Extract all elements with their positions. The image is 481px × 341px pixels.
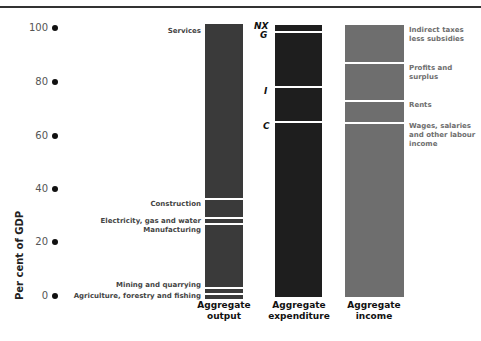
tick-dot-icon xyxy=(52,25,58,31)
title-aggregate-expenditure: Aggregate expenditure xyxy=(264,300,334,322)
segment-agriculture-divider xyxy=(205,293,243,295)
label-line: Wages, salaries xyxy=(409,122,475,131)
segment-profits-divider xyxy=(345,62,404,64)
label-c: C xyxy=(263,122,270,131)
y-tick-label: 40 xyxy=(35,183,48,194)
y-tick-80: 80 xyxy=(0,76,58,87)
segment-wages-divider xyxy=(345,122,404,124)
bar-aggregate-income xyxy=(345,25,404,297)
segment-c-divider xyxy=(275,121,322,123)
label-line: less subsidies xyxy=(409,35,464,44)
segment-rents-divider xyxy=(345,100,404,102)
label-indirect-taxes: Indirect taxes less subsidies xyxy=(409,26,464,44)
top-rule xyxy=(0,6,481,8)
y-tick-40: 40 xyxy=(0,183,58,194)
title-line: expenditure xyxy=(264,311,334,322)
label-agriculture: Agriculture, forestry and fishing xyxy=(74,292,201,301)
title-line: Aggregate xyxy=(194,300,254,311)
label-line: income xyxy=(409,140,475,149)
y-tick-label: 100 xyxy=(29,22,48,33)
label-line: Indirect taxes xyxy=(409,26,464,35)
label-i: I xyxy=(264,87,267,96)
y-tick-label: 0 xyxy=(42,290,48,301)
y-tick-60: 60 xyxy=(0,130,58,141)
segment-electricity-divider xyxy=(205,217,243,219)
label-line: surplus xyxy=(409,73,452,82)
title-aggregate-output: Aggregate output xyxy=(194,300,254,322)
tick-dot-icon xyxy=(52,186,58,192)
segment-mining-divider xyxy=(205,287,243,289)
label-manufacturing: Manufacturing xyxy=(143,226,201,235)
segment-construction-divider xyxy=(205,198,243,200)
segment-i-divider xyxy=(275,86,322,88)
label-wages: Wages, salaries and other labour income xyxy=(409,122,475,149)
title-line: income xyxy=(340,311,408,322)
y-axis-label: Per cent of GDP xyxy=(14,210,25,300)
label-electricity: Electricity, gas and water xyxy=(100,217,201,226)
label-line: and other labour xyxy=(409,131,475,140)
title-line: output xyxy=(194,311,254,322)
y-tick-0: 0 xyxy=(0,290,58,301)
y-tick-label: 20 xyxy=(35,236,48,247)
tick-dot-icon xyxy=(52,239,58,245)
title-line: Aggregate xyxy=(340,300,408,311)
tick-dot-icon xyxy=(52,133,58,139)
y-tick-20: 20 xyxy=(0,236,58,247)
segment-manufacturing-divider xyxy=(205,223,243,225)
y-tick-100: 100 xyxy=(0,22,58,33)
title-line: Aggregate xyxy=(264,300,334,311)
tick-dot-icon xyxy=(52,293,58,299)
bar-aggregate-output xyxy=(205,24,243,299)
y-tick-label: 80 xyxy=(35,76,48,87)
label-line: Profits and xyxy=(409,64,452,73)
label-rents: Rents xyxy=(409,101,432,110)
y-tick-label: 60 xyxy=(35,130,48,141)
label-mining: Mining and quarrying xyxy=(116,281,201,290)
label-services: Services xyxy=(168,27,201,36)
label-construction: Construction xyxy=(150,200,201,209)
segment-g-divider xyxy=(275,31,322,33)
label-g: G xyxy=(260,31,267,40)
title-aggregate-income: Aggregate income xyxy=(340,300,408,322)
bar-aggregate-expenditure xyxy=(275,25,322,297)
label-profits: Profits and surplus xyxy=(409,64,452,82)
tick-dot-icon xyxy=(52,79,58,85)
